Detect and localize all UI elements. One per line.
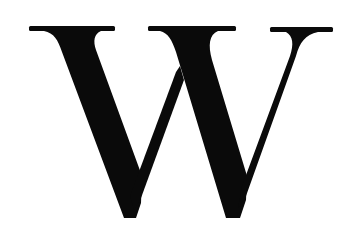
canvas: W: [0, 0, 362, 252]
serif-letter-w-glyph: [0, 0, 362, 252]
